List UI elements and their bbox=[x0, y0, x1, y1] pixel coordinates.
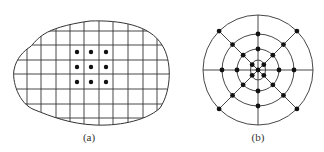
polar-node bbox=[292, 68, 297, 73]
polar-node bbox=[270, 82, 275, 87]
polar-node bbox=[256, 104, 261, 109]
figure-a-dots bbox=[75, 50, 108, 84]
polar-node-center bbox=[256, 68, 261, 73]
grid-dot bbox=[75, 80, 79, 84]
grid-dot bbox=[89, 80, 93, 84]
polar-node bbox=[241, 82, 246, 87]
polar-node bbox=[294, 106, 299, 111]
polar-node bbox=[281, 42, 286, 47]
caption-a: (a) bbox=[83, 131, 95, 143]
polar-node bbox=[261, 62, 266, 67]
figure-a-boundary bbox=[14, 21, 170, 125]
grid-dot bbox=[104, 50, 108, 54]
figure-b-polar-grid bbox=[203, 15, 313, 125]
polar-node bbox=[256, 47, 261, 52]
grid-dot bbox=[104, 65, 108, 69]
polar-node bbox=[250, 73, 255, 78]
polar-node bbox=[220, 68, 225, 73]
polar-node bbox=[256, 89, 261, 94]
polar-node bbox=[261, 73, 266, 78]
polar-node bbox=[281, 93, 286, 98]
figure-a-region bbox=[5, 10, 175, 135]
grid-dot bbox=[75, 50, 79, 54]
polar-node bbox=[217, 29, 222, 34]
grid-dot bbox=[89, 50, 93, 54]
grid-dot bbox=[89, 65, 93, 69]
grid-dot bbox=[104, 80, 108, 84]
polar-node bbox=[230, 42, 235, 47]
grid-dot bbox=[75, 65, 79, 69]
polar-node bbox=[217, 106, 222, 111]
figure-canvas bbox=[0, 0, 324, 152]
polar-node bbox=[235, 68, 240, 73]
polar-node bbox=[277, 68, 282, 73]
polar-node bbox=[250, 62, 255, 67]
polar-node bbox=[256, 32, 261, 37]
polar-node bbox=[270, 53, 275, 58]
figure-a-grid bbox=[5, 10, 175, 135]
polar-node bbox=[294, 29, 299, 34]
caption-b: (b) bbox=[252, 131, 265, 143]
polar-node bbox=[230, 93, 235, 98]
polar-node bbox=[241, 53, 246, 58]
